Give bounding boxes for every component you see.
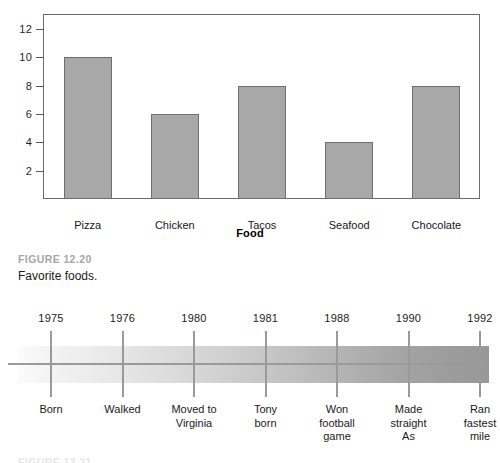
timeline-event-line: Ran (445, 403, 500, 417)
chart-bar (64, 57, 112, 199)
x-axis-title: Food (0, 227, 500, 239)
timeline-event-line: As (374, 430, 444, 444)
timeline-event-label: Walked (88, 403, 158, 417)
y-axis-tick (36, 114, 44, 115)
timeline-event-line: Moved to (159, 403, 229, 417)
timeline-tick (408, 331, 410, 397)
timeline-event-label: MadestraightAs (374, 403, 444, 444)
y-axis-tick (36, 57, 44, 58)
figure-caption-2: FIGURE 12.21 (18, 455, 318, 463)
chart-bar (151, 114, 199, 199)
y-axis-tick-label: 8 (0, 80, 32, 92)
timeline-event-line: football (302, 417, 372, 431)
figure-number-label: FIGURE 12.20 (18, 252, 318, 267)
timeline-event-line: mile (445, 430, 500, 444)
y-axis-tick-label: 12 (0, 23, 32, 35)
timeline-event-label: Moved toVirginia (159, 403, 229, 430)
timeline-year-label: 1988 (324, 312, 349, 324)
y-axis-tick-label: 4 (0, 136, 32, 148)
timeline-event-line: game (302, 430, 372, 444)
timeline-figure: 1975Born1976Walked1980Moved toVirginia19… (0, 312, 500, 452)
timeline-event-line: Walked (88, 403, 158, 417)
timeline-event-line: Born (16, 403, 86, 417)
chart-bar (325, 142, 373, 199)
y-axis-tick (36, 86, 44, 87)
chart-bar (238, 86, 286, 199)
timeline-tick (50, 331, 52, 397)
timeline-tick (479, 331, 481, 397)
timeline-event-label: Wonfootballgame (302, 403, 372, 444)
timeline-event-label: Born (16, 403, 86, 417)
timeline-event-line: Won (302, 403, 372, 417)
timeline-axis-line (8, 363, 489, 365)
timeline-event-line: Virginia (159, 417, 229, 431)
figure-title-label: Favorite foods. (18, 268, 318, 284)
bar-chart-figure: 24681012PizzaChickenTacosSeafoodChocolat… (0, 0, 500, 245)
timeline-tick (193, 331, 195, 397)
chart-bar (412, 86, 460, 199)
timeline-year-label: 1975 (38, 312, 63, 324)
timeline-event-label: Ranfastestmile (445, 403, 500, 444)
timeline-year-label: 1976 (110, 312, 135, 324)
timeline-event-line: born (231, 417, 301, 431)
timeline-event-line: straight (374, 417, 444, 431)
timeline-event-label: Tonyborn (231, 403, 301, 430)
timeline-year-label: 1992 (467, 312, 492, 324)
timeline-event-line: fastest (445, 417, 500, 431)
y-axis-tick (36, 29, 44, 30)
timeline-year-label: 1981 (253, 312, 278, 324)
timeline-event-line: Tony (231, 403, 301, 417)
timeline-event-line: Made (374, 403, 444, 417)
timeline-tick (122, 331, 124, 397)
timeline-tick (265, 331, 267, 397)
figure-number-label-2: FIGURE 12.21 (18, 455, 318, 463)
timeline-year-label: 1990 (396, 312, 421, 324)
timeline-tick (336, 331, 338, 397)
y-axis-tick (36, 171, 44, 172)
timeline-year-label: 1980 (181, 312, 206, 324)
figure-caption-1: FIGURE 12.20 Favorite foods. (18, 252, 318, 284)
y-axis-tick-label: 2 (0, 165, 32, 177)
y-axis-tick-label: 6 (0, 108, 32, 120)
y-axis-tick-label: 10 (0, 51, 32, 63)
y-axis-tick (36, 142, 44, 143)
chart-plot-area: 24681012PizzaChickenTacosSeafoodChocolat… (44, 15, 480, 199)
